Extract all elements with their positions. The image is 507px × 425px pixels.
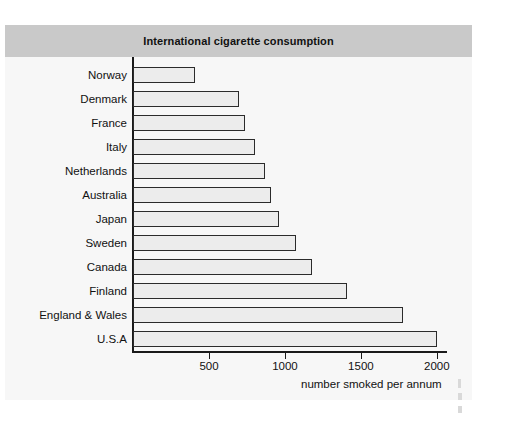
category-label: Canada (5, 255, 127, 279)
x-tick (361, 353, 362, 359)
x-axis-line (132, 351, 447, 353)
bar-row: Japan (5, 207, 472, 231)
category-label: Denmark (5, 87, 127, 111)
bar (133, 331, 437, 347)
bar-row: England & Wales (5, 303, 472, 327)
category-label: Italy (5, 135, 127, 159)
x-tick-label: 500 (199, 360, 218, 372)
category-label: U.S.A (5, 327, 127, 351)
category-label: Sweden (5, 231, 127, 255)
bar-row: U.S.A (5, 327, 472, 351)
category-label: Finland (5, 279, 127, 303)
bar (133, 283, 347, 299)
bar (133, 235, 296, 251)
page-edge-artifact (454, 377, 472, 421)
category-label: Norway (5, 63, 127, 87)
bar-row: Canada (5, 255, 472, 279)
x-tick (285, 353, 286, 359)
bar (133, 91, 239, 107)
bar-row: Netherlands (5, 159, 472, 183)
bar (133, 307, 403, 323)
category-label: England & Wales (5, 303, 127, 327)
bar (133, 259, 312, 275)
chart-title-bar: International cigarette consumption (5, 25, 472, 57)
bar (133, 187, 271, 203)
x-tick-label: 1500 (348, 360, 374, 372)
bar-row: Italy (5, 135, 472, 159)
bar-row: Norway (5, 63, 472, 87)
bar (133, 163, 265, 179)
bar-row: Australia (5, 183, 472, 207)
category-label: Japan (5, 207, 127, 231)
plot-area: NorwayDenmarkFranceItalyNetherlandsAustr… (5, 57, 472, 400)
bar-row: Finland (5, 279, 472, 303)
category-label: France (5, 111, 127, 135)
x-tick-label: 1000 (272, 360, 298, 372)
category-label: Australia (5, 183, 127, 207)
bar-row: Sweden (5, 231, 472, 255)
bar (133, 115, 245, 131)
x-tick (209, 353, 210, 359)
chart-figure: International cigarette consumption Norw… (5, 25, 472, 400)
x-axis-label: number smoked per annum (301, 378, 442, 390)
bar (133, 211, 279, 227)
bar-row: France (5, 111, 472, 135)
x-tick-label: 2000 (424, 360, 450, 372)
chart-title: International cigarette consumption (143, 35, 334, 47)
category-label: Netherlands (5, 159, 127, 183)
bar-row: Denmark (5, 87, 472, 111)
x-tick (437, 353, 438, 359)
bar (133, 67, 195, 83)
bar (133, 139, 255, 155)
